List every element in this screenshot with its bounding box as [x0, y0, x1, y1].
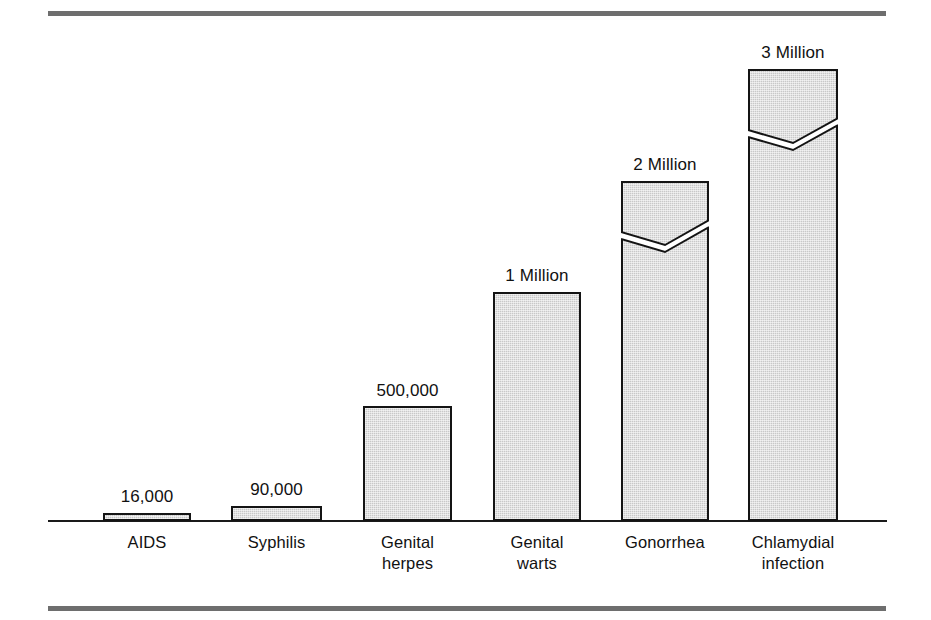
bar-chart-plot-area: 16,000AIDS90,000Syphilis500,000Genital h… [0, 0, 931, 620]
bar-group-chlamydial-infection: 3 MillionChlamydial infection [0, 0, 931, 620]
category-label-chlamydial-infection: Chlamydial infection [708, 532, 878, 574]
bar-value-label-chlamydial-infection: 3 Million [708, 43, 878, 63]
bar-chlamydial-infection[interactable] [748, 69, 838, 521]
figure-container: 16,000AIDS90,000Syphilis500,000Genital h… [0, 0, 931, 620]
